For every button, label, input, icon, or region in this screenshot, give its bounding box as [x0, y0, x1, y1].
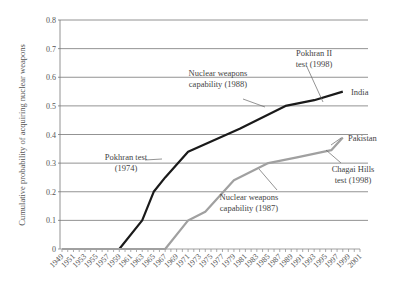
- annotation-leader: [259, 169, 277, 190]
- x-axis: 1949195119531955195719591961196319651967…: [48, 249, 364, 270]
- y-tick-label: 0.6: [46, 73, 56, 82]
- y-tick-label: 0.4: [46, 131, 56, 140]
- annotations: Pokhran test(1974)Nuclear weaponscapabil…: [105, 48, 375, 213]
- annotation-text: Pokhran test: [105, 152, 148, 162]
- annotation-text: test (1998): [335, 175, 372, 185]
- series-line-india: [62, 92, 343, 249]
- y-tick-label: 0.2: [46, 188, 56, 197]
- annotation: Pokhran test(1974): [105, 152, 162, 173]
- y-tick-label: 0.7: [46, 45, 56, 54]
- y-tick-label: 0.1: [46, 216, 56, 225]
- annotation-text: (1974): [115, 163, 138, 173]
- annotation: Nuclear weaponscapability (1988): [189, 68, 265, 107]
- y-tick-label: 0: [52, 245, 56, 254]
- y-tick-label: 0.3: [46, 159, 56, 168]
- y-tick-label: 0.5: [46, 102, 56, 111]
- y-axis: 00.10.20.30.40.50.60.70.8: [46, 16, 60, 254]
- y-axis-label: Cumulative probability of acquiring nucl…: [17, 44, 27, 226]
- annotation-text: Chagai Hills: [332, 164, 375, 174]
- annotation-leader: [326, 150, 341, 163]
- annotation: Pokhran IItest (1998): [296, 48, 333, 102]
- x-tick-label: 2001: [346, 252, 364, 270]
- annotation-text: capability (1987): [220, 203, 278, 213]
- series-lines: [62, 92, 343, 249]
- annotation-text: Nuclear weapons: [220, 192, 279, 202]
- annotation: Chagai Hillstest (1998): [326, 150, 374, 185]
- annotation-text: Pokhran II: [296, 48, 332, 58]
- annotation-leader: [307, 67, 323, 102]
- legend-label-pakistan: Pakistan: [348, 133, 378, 143]
- line-chart: 00.10.20.30.40.50.60.70.8 19491951195319…: [0, 0, 399, 285]
- legend-label-india: India: [351, 87, 369, 97]
- annotation-text: test (1998): [296, 59, 333, 69]
- annotation-text: Nuclear weapons: [189, 68, 248, 78]
- y-tick-label: 0.8: [46, 16, 56, 25]
- annotation-text: capability (1988): [189, 79, 247, 89]
- annotation-leader: [145, 159, 162, 160]
- inline-legend: IndiaPakistan: [331, 87, 378, 145]
- annotation: Nuclear weaponscapability (1987): [220, 169, 279, 213]
